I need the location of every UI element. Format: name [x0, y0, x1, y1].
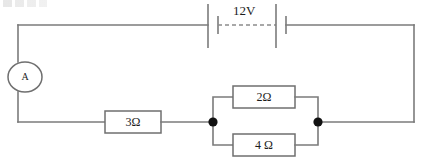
- circuit-schematic-svg: [0, 0, 421, 160]
- resistor-label-3ohm: 3Ω: [105, 116, 161, 128]
- junction-dot-left: [208, 117, 217, 126]
- resistor-label-2ohm: 2Ω: [233, 91, 295, 103]
- junction-dot-right: [313, 117, 322, 126]
- wire-node-left-to-top-branch: [213, 97, 233, 122]
- resistor-label-4ohm: 4 Ω: [233, 139, 295, 151]
- circuit-diagram-canvas: 12V A 3Ω 2Ω 4 Ω: [0, 0, 421, 160]
- wire-top-branch-to-node-right: [295, 97, 318, 122]
- ammeter-label: A: [18, 72, 32, 82]
- wire-bottom-branch-to-node-right: [295, 122, 318, 145]
- battery-voltage-label: 12V: [233, 4, 255, 17]
